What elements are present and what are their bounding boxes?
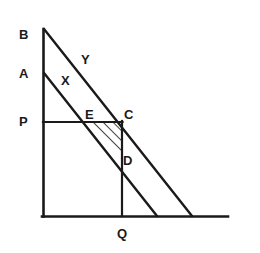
label-p: P — [19, 115, 28, 128]
geometry-canvas — [0, 0, 260, 253]
label-e: E — [85, 108, 94, 121]
label-q: Q — [117, 227, 127, 240]
label-a: A — [19, 67, 28, 80]
line-x-segment — [44, 73, 157, 216]
label-d: D — [123, 154, 132, 167]
geometry-figure: B A P Y X E C D Q — [0, 0, 260, 253]
label-b: B — [19, 28, 28, 41]
label-y: Y — [81, 53, 90, 66]
label-x: X — [61, 74, 70, 87]
label-c: C — [124, 108, 133, 121]
shaded-triangle-ecd — [90, 122, 122, 160]
